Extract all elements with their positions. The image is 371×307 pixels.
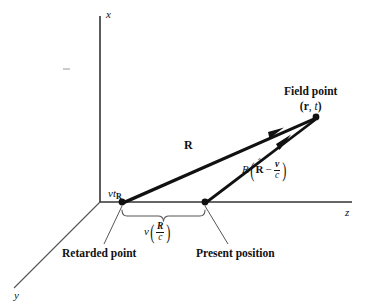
z-axis-label: z	[345, 207, 349, 218]
vector-R-label: R	[184, 139, 193, 151]
brace-label: v(Rc)	[144, 222, 172, 242]
scan-artifact-speck	[63, 68, 70, 70]
x-axis-label: x	[106, 9, 111, 20]
leader-present-position	[205, 206, 228, 244]
brace-paren-open: (	[150, 222, 154, 242]
brace-fraction-denominator: c	[156, 233, 164, 243]
vector-Rv-paren-open: (	[250, 160, 254, 180]
r-hat-symbol: ˆR	[255, 164, 263, 175]
y-axis	[14, 202, 100, 288]
field-point-coordinates: (r, t)	[284, 101, 337, 113]
displacement-brace	[122, 210, 205, 221]
vector-Rv-fraction: vc	[274, 160, 280, 180]
displacement-axis-label: vtR	[108, 188, 122, 201]
y-axis-label: y	[14, 290, 19, 301]
vector-Rv-fraction-denominator: c	[274, 171, 280, 181]
vector-Rv-R: R	[242, 163, 249, 175]
leader-retarded-point	[104, 206, 122, 244]
diagram-canvas	[0, 0, 371, 307]
brace-fraction: Rc	[156, 222, 164, 242]
field-point-marker	[313, 114, 320, 121]
present-position-caption: Present position	[196, 248, 275, 260]
retarded-point-caption: Retarded point	[62, 248, 136, 260]
vector-Rv-arrowhead	[276, 135, 291, 151]
hat-accent-icon: ˆ	[258, 158, 261, 167]
vector-Rv-paren-close: )	[282, 160, 286, 180]
vector-Rv-label: R(ˆR−vc)	[242, 160, 287, 180]
field-point-label: Field point (r, t)	[284, 86, 337, 112]
field-point-t: t	[315, 100, 318, 112]
field-point-label-line1: Field point	[284, 86, 337, 98]
brace-paren-close: )	[166, 222, 170, 242]
vector-Rv-minus: −	[265, 163, 271, 175]
displacement-subscript: R	[116, 192, 122, 201]
present-position-marker	[202, 199, 209, 206]
brace-v: v	[144, 225, 149, 237]
